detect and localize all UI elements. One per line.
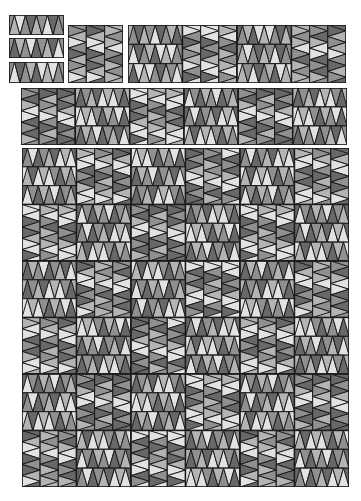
strip-2 [9,38,64,58]
strip-1 [9,15,64,35]
block-v-top [68,25,123,83]
strip-3 [9,62,64,83]
row-unit-top [128,25,346,83]
band-row [21,88,347,145]
quilt-top [22,148,349,487]
